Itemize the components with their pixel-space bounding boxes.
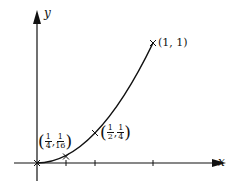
y-axis-label: y xyxy=(44,6,51,20)
point-half-icon xyxy=(92,130,98,136)
point-one-icon xyxy=(150,40,156,46)
point-label-one: (1, 1) xyxy=(158,36,188,49)
point-label-half: (12,14) xyxy=(100,124,131,141)
y-axis-arrow-icon xyxy=(33,10,41,24)
graph-canvas xyxy=(0,0,238,189)
x-axis-label: x xyxy=(218,155,225,169)
point-label-quarter: (14,116) xyxy=(38,133,72,150)
